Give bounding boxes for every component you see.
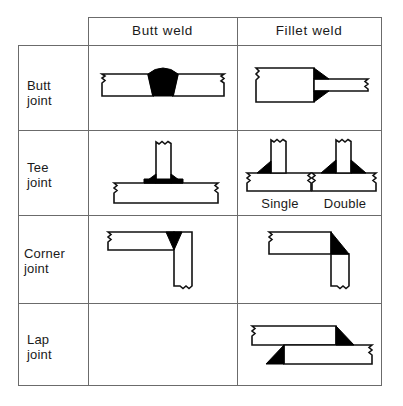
column-header-butt-weld: Butt weld	[88, 23, 237, 38]
row-header-tee-joint: Tee joint	[27, 160, 52, 190]
column-header-fillet-weld: Fillet weld	[237, 23, 381, 38]
figure-tee-joint-butt-weld	[110, 137, 222, 209]
sublabel-double: Double	[310, 196, 380, 211]
grid-line-row-2	[18, 215, 382, 216]
figure-tee-joint-fillet-weld-double	[310, 137, 380, 197]
grid-line-col-divider	[237, 17, 238, 386]
figure-v-groove-butt-weld	[98, 62, 228, 107]
grid-line-header-top	[88, 17, 382, 18]
weld-joint-matrix-diagram: Butt weld Fillet weld Butt joint Tee joi…	[0, 0, 403, 406]
figure-butt-joint-fillet-weld	[252, 60, 374, 110]
grid-line-left-edge	[18, 45, 19, 386]
grid-line-bottom	[18, 385, 382, 386]
figure-lap-joint-fillet-weld	[248, 318, 376, 376]
row-header-lap-joint: Lap joint	[27, 332, 52, 362]
row-header-corner-joint: Corner joint	[24, 246, 65, 276]
sublabel-single: Single	[245, 196, 315, 211]
cell-lap-joint-butt-weld-empty	[89, 304, 237, 385]
row-header-butt-joint: Butt joint	[27, 78, 52, 108]
figure-corner-joint-fillet-weld	[265, 224, 370, 296]
figure-corner-joint-butt-weld	[104, 224, 224, 296]
grid-line-row-1	[18, 130, 382, 131]
figure-tee-joint-fillet-weld-single	[245, 137, 315, 197]
grid-line-header-bottom	[18, 45, 382, 46]
grid-line-right-edge	[381, 17, 382, 386]
